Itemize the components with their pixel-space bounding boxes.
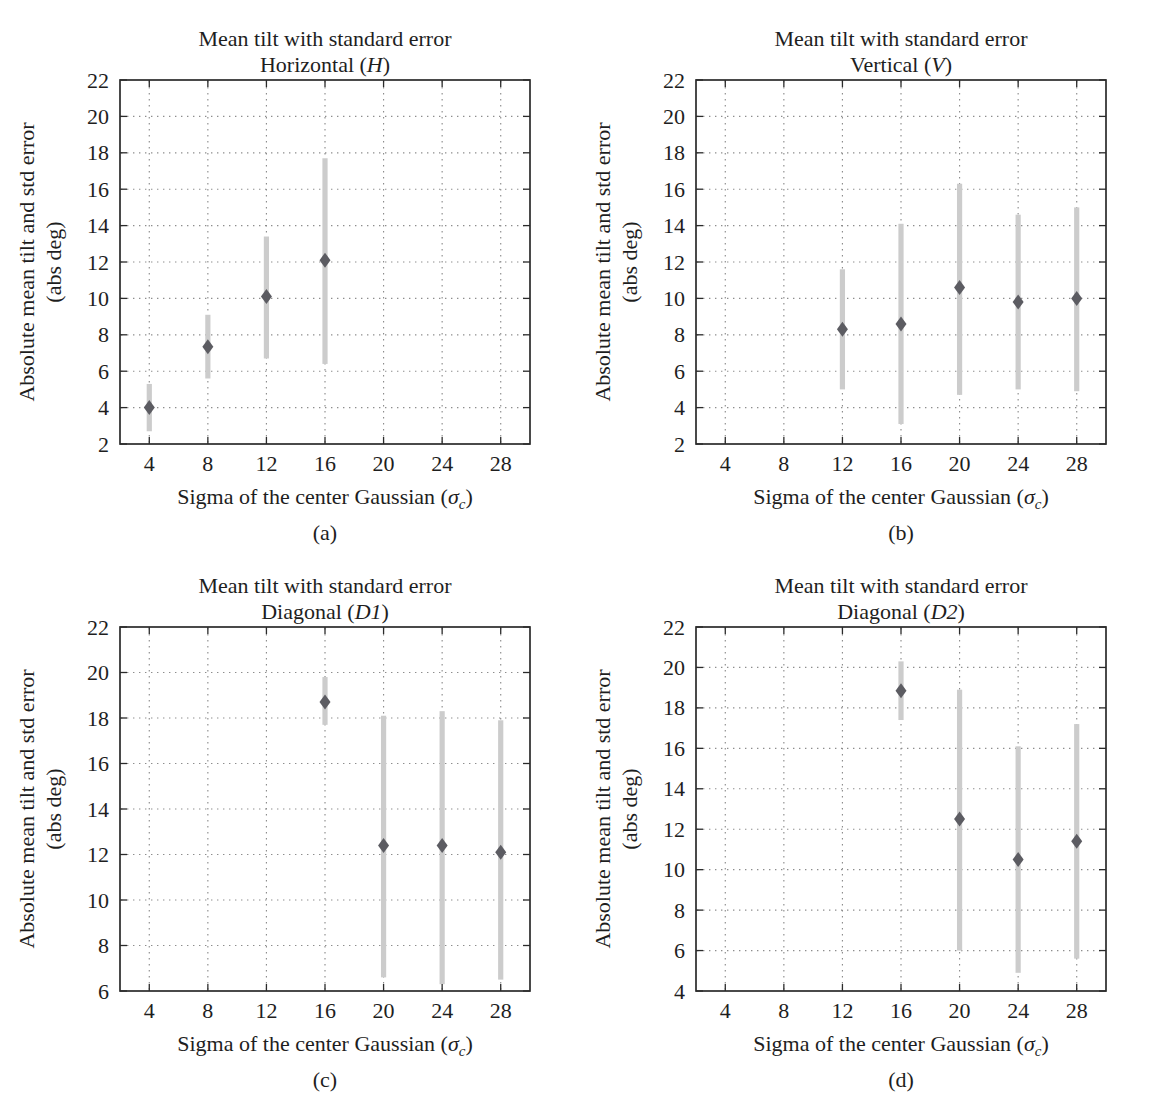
y-tick-label: 18 — [663, 695, 685, 720]
data-point-marker — [202, 339, 213, 354]
y-tick-label: 16 — [87, 177, 109, 202]
y-tick-label: 6 — [674, 938, 685, 963]
y-tick-label: 10 — [87, 286, 109, 311]
chart-subtitle: Horizontal (H) — [260, 52, 390, 77]
chart-title: Mean tilt with standard error — [775, 573, 1029, 598]
y-tick-label: 20 — [87, 660, 109, 685]
panel-a-horizontal: 246810121416182022481216202428Mean tilt … — [0, 0, 576, 547]
y-axis-label-line1: Absolute mean tilt and std error — [590, 122, 615, 402]
y-tick-label: 12 — [87, 250, 109, 275]
x-tick-label: 12 — [255, 998, 277, 1023]
y-tick-label: 20 — [87, 104, 109, 129]
y-tick-label: 16 — [87, 751, 109, 776]
chart-a: 246810121416182022481216202428Mean tilt … — [0, 0, 576, 547]
y-tick-label: 10 — [663, 286, 685, 311]
y-tick-label: 20 — [663, 104, 685, 129]
chart-title: Mean tilt with standard error — [199, 573, 453, 598]
x-tick-label: 8 — [202, 998, 213, 1023]
chart-subtitle: Diagonal (D1) — [261, 599, 389, 624]
chart-d: 46810121416182022481216202428Mean tilt w… — [576, 547, 1152, 1094]
chart-c: 6810121416182022481216202428Mean tilt wi… — [0, 547, 576, 1094]
y-axis-label-line2: (abs deg) — [617, 221, 642, 302]
y-tick-label: 18 — [87, 706, 109, 731]
panel-label: (c) — [313, 1067, 337, 1092]
x-tick-label: 4 — [720, 998, 731, 1023]
data-point-marker — [896, 683, 907, 698]
y-tick-label: 22 — [663, 68, 685, 93]
y-tick-label: 22 — [663, 615, 685, 640]
x-tick-label: 28 — [1066, 998, 1088, 1023]
y-tick-label: 14 — [87, 797, 109, 822]
y-tick-label: 22 — [87, 615, 109, 640]
panel-c-diagonal-d1: 6810121416182022481216202428Mean tilt wi… — [0, 547, 576, 1094]
x-tick-label: 8 — [202, 451, 213, 476]
x-tick-label: 28 — [490, 998, 512, 1023]
y-tick-label: 8 — [98, 322, 109, 347]
y-axis-label-line2: (abs deg) — [617, 768, 642, 849]
y-tick-label: 4 — [674, 979, 685, 1004]
y-tick-label: 12 — [87, 842, 109, 867]
x-tick-label: 8 — [778, 998, 789, 1023]
x-tick-label: 20 — [373, 451, 395, 476]
x-tick-label: 20 — [949, 998, 971, 1023]
y-tick-label: 8 — [674, 898, 685, 923]
x-tick-label: 28 — [490, 451, 512, 476]
panel-label: (a) — [313, 520, 337, 545]
chart-title: Mean tilt with standard error — [199, 26, 453, 51]
x-tick-label: 12 — [831, 998, 853, 1023]
x-tick-label: 24 — [431, 451, 453, 476]
x-tick-label: 16 — [890, 451, 912, 476]
y-tick-label: 16 — [663, 736, 685, 761]
x-tick-label: 8 — [778, 451, 789, 476]
panel-label: (d) — [888, 1067, 914, 1092]
panel-d-diagonal-d2: 46810121416182022481216202428Mean tilt w… — [576, 547, 1152, 1094]
x-tick-label: 4 — [144, 998, 155, 1023]
x-axis-label: Sigma of the center Gaussian (σc) — [753, 484, 1048, 512]
y-tick-label: 8 — [674, 322, 685, 347]
data-point-marker — [896, 316, 907, 331]
y-tick-label: 22 — [87, 68, 109, 93]
panel-b-vertical: 246810121416182022481216202428Mean tilt … — [576, 0, 1152, 547]
y-tick-label: 4 — [98, 395, 109, 420]
data-point-marker — [954, 812, 965, 827]
y-axis-label-line1: Absolute mean tilt and std error — [14, 122, 39, 402]
y-axis-label-line1: Absolute mean tilt and std error — [590, 669, 615, 949]
data-point-marker — [495, 845, 506, 860]
x-tick-label: 4 — [720, 451, 731, 476]
x-tick-label: 20 — [373, 998, 395, 1023]
chart-subtitle: Diagonal (D2) — [837, 599, 965, 624]
y-tick-label: 12 — [663, 817, 685, 842]
x-tick-label: 24 — [1007, 998, 1029, 1023]
x-tick-label: 16 — [890, 998, 912, 1023]
y-tick-label: 4 — [674, 395, 685, 420]
x-tick-label: 24 — [431, 998, 453, 1023]
y-tick-label: 16 — [663, 177, 685, 202]
x-axis-label: Sigma of the center Gaussian (σc) — [177, 1031, 472, 1059]
data-point-marker — [320, 695, 331, 710]
y-tick-label: 10 — [663, 857, 685, 882]
y-tick-label: 12 — [663, 250, 685, 275]
x-tick-label: 16 — [314, 451, 336, 476]
y-tick-label: 2 — [674, 432, 685, 457]
x-axis-label: Sigma of the center Gaussian (σc) — [177, 484, 472, 512]
chart-subtitle: Vertical (V) — [850, 52, 952, 77]
data-point-marker — [954, 280, 965, 295]
data-point-marker — [378, 838, 389, 853]
chart-b: 246810121416182022481216202428Mean tilt … — [576, 0, 1152, 547]
chart-title: Mean tilt with standard error — [775, 26, 1029, 51]
data-point-marker — [261, 289, 272, 304]
data-point-marker — [320, 253, 331, 268]
y-axis-label-line2: (abs deg) — [41, 768, 66, 849]
x-tick-label: 4 — [144, 451, 155, 476]
y-tick-label: 14 — [87, 213, 109, 238]
y-tick-label: 8 — [98, 933, 109, 958]
x-tick-label: 16 — [314, 998, 336, 1023]
y-tick-label: 6 — [98, 359, 109, 384]
data-point-marker — [144, 400, 155, 415]
x-tick-label: 24 — [1007, 451, 1029, 476]
y-axis-label-line2: (abs deg) — [41, 221, 66, 302]
x-axis-label: Sigma of the center Gaussian (σc) — [753, 1031, 1048, 1059]
y-tick-label: 6 — [674, 359, 685, 384]
data-point-marker — [437, 838, 448, 853]
y-tick-label: 2 — [98, 432, 109, 457]
